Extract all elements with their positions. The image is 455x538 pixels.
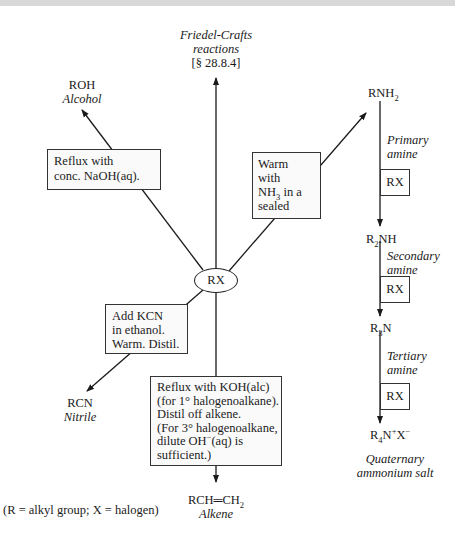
friedel-crafts-label: Friedel-Crafts bbox=[180, 28, 252, 42]
friedel-crafts-section-ref: [§ 28.8.4] bbox=[192, 56, 241, 70]
quaternary-salt-name: Quaternaryammonium salt bbox=[357, 452, 434, 480]
tertiary-amine-formula: R3N bbox=[370, 321, 392, 335]
alcohol-name: Alcohol bbox=[63, 92, 102, 106]
rx-reagent-box-2: RX bbox=[380, 276, 410, 303]
condition-line: Distil off alkene. bbox=[157, 408, 275, 422]
condition-line: Reflux with KOH(alc) bbox=[157, 381, 275, 395]
halogenoalkane-rx-node: RX bbox=[194, 268, 238, 293]
condition-line: sealed bbox=[258, 199, 315, 213]
primary-amine-formula: RNH2 bbox=[368, 86, 399, 100]
condition-line-nh3: NH3 in a bbox=[258, 185, 315, 199]
tertiary-amine-label: Tertiaryamine bbox=[387, 349, 427, 377]
friedel-crafts-reactions-label: reactions bbox=[193, 42, 239, 56]
nitrile-name: Nitrile bbox=[64, 410, 97, 424]
legend-note: (R = alkyl group; X = halogen) bbox=[3, 503, 159, 517]
condition-line: (For 3° halogenoalkane, bbox=[157, 422, 275, 436]
rx-reagent-box-1: RX bbox=[380, 169, 410, 196]
condition-line: sufficient.) bbox=[157, 449, 275, 463]
quaternary-salt-formula: R4N+X− bbox=[370, 428, 410, 442]
condition-line-hydroxide: dilute OH−(aq) is bbox=[157, 435, 275, 449]
condition-line: Warm. Distil. bbox=[112, 337, 181, 351]
secondary-amine-formula: R2NH bbox=[366, 232, 397, 246]
ammonia-condition-box: Warm with NH3 in a sealed bbox=[252, 152, 321, 219]
condition-line: conc. NaOH(aq). bbox=[54, 169, 154, 184]
nitrile-condition-box: Add KCN in ethanol. Warm. Distil. bbox=[105, 304, 188, 354]
secondary-amine-label: Secondaryamine bbox=[387, 249, 440, 277]
arrow-alcohol bbox=[82, 110, 203, 270]
condition-line: Add KCN bbox=[112, 309, 181, 323]
alkene-name: Alkene bbox=[199, 507, 233, 521]
rx-label: RX bbox=[207, 273, 224, 288]
nitrile-formula: RCN bbox=[67, 396, 93, 410]
rx-reagent-box-3: RX bbox=[380, 383, 410, 410]
condition-line: Warm bbox=[258, 157, 315, 171]
primary-amine-label: Primaryamine bbox=[387, 133, 429, 161]
alcohol-condition-box: Reflux with conc. NaOH(aq). bbox=[47, 149, 161, 190]
condition-line: in ethanol. bbox=[112, 323, 181, 337]
alcohol-formula: ROH bbox=[69, 78, 95, 92]
condition-line: with bbox=[258, 171, 315, 185]
alkene-formula: RCH═CH2 bbox=[188, 493, 244, 507]
condition-line: Reflux with bbox=[54, 154, 154, 169]
alkene-condition-box: Reflux with KOH(alc) (for 1° halogenoalk… bbox=[150, 376, 282, 466]
condition-line: (for 1° halogenoalkane). bbox=[157, 395, 275, 409]
